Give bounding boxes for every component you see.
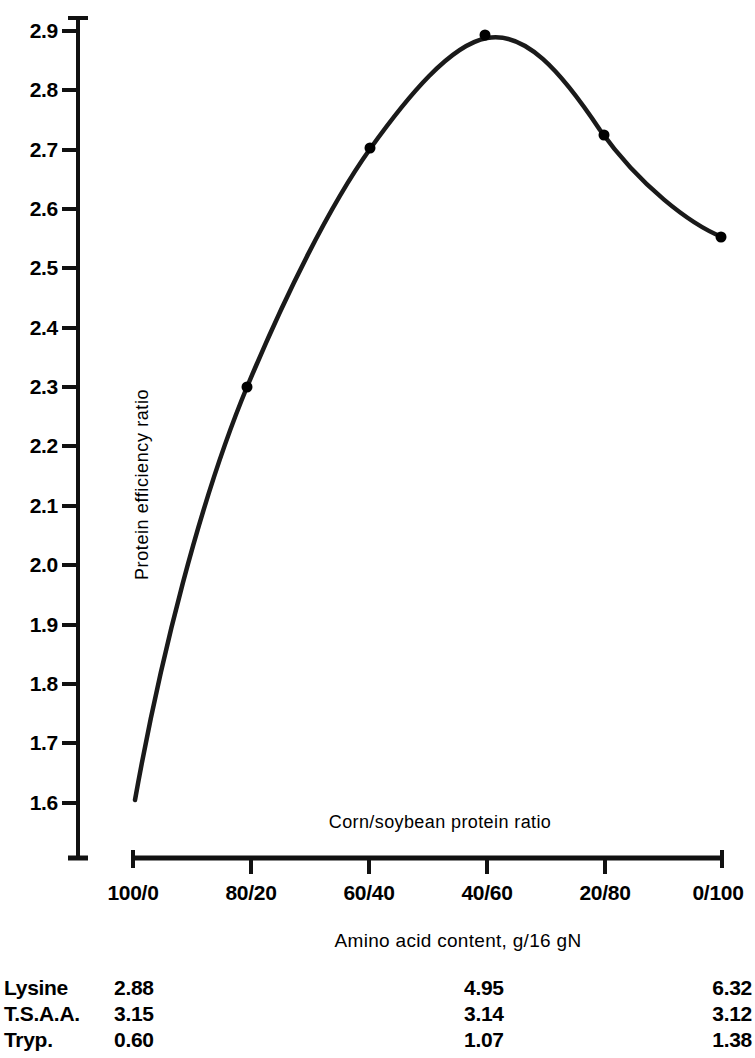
data-point-60-40 [365, 143, 376, 154]
data-point-markers [242, 30, 727, 393]
table-row: Tryp. 0.60 1.07 1.38 [4, 1027, 752, 1053]
table-row: T.S.A.A. 3.15 3.14 3.12 [4, 1001, 752, 1027]
y-axis-ticks [62, 31, 78, 803]
x-axis-ticks [133, 850, 722, 874]
y-tick-label: 2.0 [6, 553, 58, 577]
cell-value: 4.95 [464, 975, 694, 1001]
y-tick-label: 2.8 [6, 78, 58, 102]
row-label: T.S.A.A. [4, 1001, 114, 1027]
y-tick-label: 1.8 [6, 672, 58, 696]
cell-value: 1.07 [464, 1027, 694, 1053]
cell-value: 3.12 [694, 1001, 752, 1027]
y-tick-label: 2.7 [6, 138, 58, 162]
data-point-40-60 [480, 30, 491, 41]
y-tick-label: 1.9 [6, 613, 58, 637]
y-axis-title: Protein efficiency ratio [132, 389, 153, 580]
y-tick-label: 1.7 [6, 731, 58, 755]
amino-acid-table: Lysine 2.88 4.95 6.32 T.S.A.A. 3.15 3.14… [4, 975, 752, 1053]
row-label: Tryp. [4, 1027, 114, 1053]
x-tick-label: 100/0 [107, 881, 158, 905]
x-tick-label: 20/80 [579, 881, 630, 905]
y-tick-label: 1.6 [6, 791, 58, 815]
cell-value: 3.15 [114, 1001, 464, 1027]
cell-value: 0.60 [114, 1027, 464, 1053]
y-tick-label: 2.3 [6, 375, 58, 399]
figure-container: 2.9 2.8 2.7 2.6 2.5 2.4 2.3 2.2 2.1 2.0 … [0, 0, 755, 1058]
y-tick-label: 2.5 [6, 256, 58, 280]
x-tick-label: 80/20 [225, 881, 276, 905]
table-caption: Amino acid content, g/16 gN [335, 930, 582, 952]
x-tick-label: 60/40 [343, 881, 394, 905]
x-tick-label: 0/100 [692, 881, 743, 905]
y-tick-label: 2.6 [6, 197, 58, 221]
cell-value: 1.38 [694, 1027, 752, 1053]
cell-value: 3.14 [464, 1001, 694, 1027]
cell-value: 6.32 [694, 975, 752, 1001]
table-row: Lysine 2.88 4.95 6.32 [4, 975, 752, 1001]
y-tick-label: 2.1 [6, 494, 58, 518]
data-point-0-100 [716, 232, 727, 243]
series-line-protein-efficiency-ratio [135, 37, 722, 800]
x-axis-title: Corn/soybean protein ratio [329, 812, 552, 833]
data-point-20-80 [599, 130, 610, 141]
y-tick-label: 2.2 [6, 434, 58, 458]
y-tick-label: 2.9 [6, 19, 58, 43]
y-tick-label: 2.4 [6, 316, 58, 340]
data-point-80-20 [242, 382, 253, 393]
cell-value: 2.88 [114, 975, 464, 1001]
x-tick-label: 40/60 [461, 881, 512, 905]
row-label: Lysine [4, 975, 114, 1001]
